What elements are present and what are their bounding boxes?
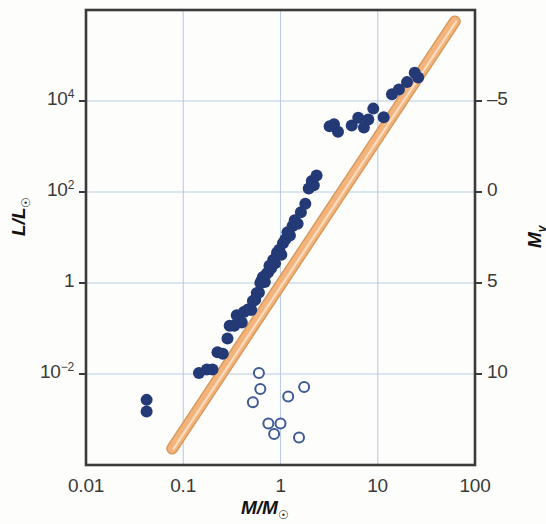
mass-luminosity-fit-line	[172, 21, 456, 448]
open-circle-data-points	[248, 368, 309, 443]
plot-canvas	[0, 0, 546, 524]
x-tick-label-1: 0.1	[170, 475, 196, 497]
y-tick-label-0: 104	[47, 88, 74, 110]
x-axis-title: M/M☉	[241, 497, 289, 519]
y-tick-label-right-1: 0	[487, 179, 497, 201]
y-tick-label-2: 1	[64, 270, 74, 292]
y-tick-label-1: 102	[47, 179, 74, 201]
y-axis-title-right: Mv	[524, 225, 546, 248]
x-tick-label-3: 10	[367, 475, 388, 497]
x-tick-label-0: 0.01	[68, 475, 104, 497]
x-tick-label-4: 100	[460, 475, 491, 497]
mass-luminosity-chart: 0.010.1110100104102110−2–50510 L/L☉ Mv M…	[0, 0, 546, 524]
y-tick-label-right-2: 5	[487, 270, 497, 292]
y-tick-label-right-0: –5	[487, 88, 508, 110]
y-axis-title-left: L/L☉	[8, 197, 30, 237]
y-tick-label-3: 10−2	[40, 361, 74, 383]
y-tick-label-right-3: 10	[487, 361, 508, 383]
x-tick-label-2: 1	[276, 475, 286, 497]
